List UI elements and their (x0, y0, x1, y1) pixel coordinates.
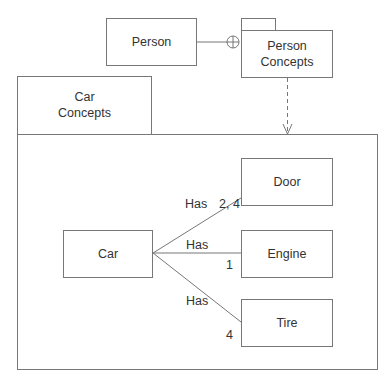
person-concepts-package-tab (242, 19, 276, 31)
person-concepts-package-label: Person Concepts (242, 38, 332, 70)
containment-circle-plus-icon (227, 36, 239, 48)
association-door-label: Has (185, 196, 207, 212)
car-concepts-label-line2: Concepts (18, 105, 151, 121)
association-tire-label: Has (186, 293, 208, 309)
door-class-label: Door (242, 159, 332, 205)
association-door-multiplicity: 2, 4 (219, 196, 240, 212)
association-engine-label: Has (186, 237, 208, 253)
person-concepts-label-line2: Concepts (242, 54, 332, 70)
car-concepts-package-label: Car Concepts (18, 89, 151, 121)
association-tire-multiplicity: 4 (226, 327, 233, 343)
car-class-label: Car (64, 231, 152, 277)
car-concepts-label-line1: Car (18, 89, 151, 105)
association-engine-multiplicity: 1 (226, 257, 233, 273)
diagram-canvas (0, 0, 392, 385)
person-concepts-label-line1: Person (242, 38, 332, 54)
engine-class-label: Engine (242, 231, 332, 277)
person-class-label: Person (107, 19, 196, 65)
tire-class-label: Tire (242, 300, 332, 346)
